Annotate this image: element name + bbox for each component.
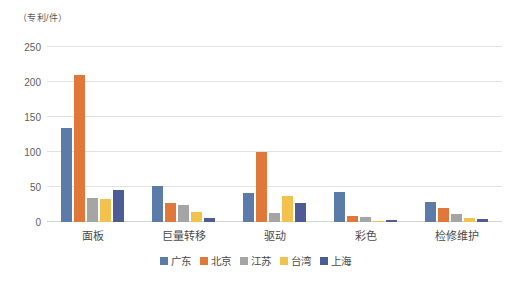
grouped-bar-chart: （专利/件） 050100150200250 面板巨量转移驱动彩色检修维护 广东…: [0, 0, 510, 285]
legend-label: 北京: [211, 253, 231, 268]
bar: [113, 190, 124, 222]
bar-group: [47, 47, 138, 222]
legend-item-广东[interactable]: 广东: [160, 253, 191, 268]
legend-swatch-icon: [240, 257, 248, 265]
bar: [425, 202, 436, 222]
bar: [74, 75, 85, 222]
legend-label: 江苏: [251, 253, 271, 268]
bar: [152, 186, 163, 222]
bar: [477, 219, 488, 223]
bar: [451, 214, 462, 222]
x-axis-category-label-0: 面板: [47, 227, 138, 243]
bar-group: [411, 47, 502, 222]
bar: [204, 218, 215, 222]
bar: [386, 220, 397, 222]
x-axis-category-label-2: 驱动: [229, 227, 320, 243]
legend-label: 上海: [331, 253, 351, 268]
legend-item-江苏[interactable]: 江苏: [240, 253, 271, 268]
bar-group: [229, 47, 320, 222]
legend-label: 台湾: [291, 253, 311, 268]
y-axis-tick-label: 150: [1, 112, 41, 123]
y-axis-tick-label: 200: [1, 77, 41, 88]
legend-label: 广东: [171, 253, 191, 268]
y-axis-tick-label: 0: [1, 217, 41, 228]
bar: [100, 199, 111, 222]
legend-swatch-icon: [320, 257, 328, 265]
x-axis-category-label-1: 巨量转移: [138, 227, 229, 243]
bar: [178, 205, 189, 223]
y-axis-unit-label: （专利/件）: [18, 11, 67, 24]
bar: [243, 193, 254, 222]
bar: [438, 208, 449, 222]
bar: [334, 192, 345, 222]
bar-groups: [47, 47, 502, 222]
y-axis-tick-label: 100: [1, 147, 41, 158]
bar: [165, 203, 176, 222]
legend-swatch-icon: [160, 257, 168, 265]
plot-area: [47, 47, 502, 222]
bar: [347, 216, 358, 222]
bar: [87, 198, 98, 222]
bar: [269, 213, 280, 222]
y-axis-tick-label: 250: [1, 42, 41, 53]
bar: [360, 217, 371, 222]
x-axis-category-labels: 面板巨量转移驱动彩色检修维护: [47, 227, 502, 243]
bar: [256, 152, 267, 222]
chart-legend: 广东北京江苏台湾上海: [0, 253, 510, 268]
bar: [61, 128, 72, 223]
bar: [282, 196, 293, 222]
legend-item-上海[interactable]: 上海: [320, 253, 351, 268]
x-axis-category-label-3: 彩色: [320, 227, 411, 243]
bar: [191, 212, 202, 222]
legend-item-台湾[interactable]: 台湾: [280, 253, 311, 268]
bar-group: [138, 47, 229, 222]
y-axis-tick-labels: 050100150200250: [0, 47, 41, 222]
x-axis-category-label-4: 检修维护: [411, 227, 502, 243]
bar: [464, 218, 475, 222]
legend-swatch-icon: [200, 257, 208, 265]
bar: [373, 221, 384, 222]
y-axis-tick-label: 50: [1, 182, 41, 193]
bar-group: [320, 47, 411, 222]
legend-swatch-icon: [280, 257, 288, 265]
legend-item-北京[interactable]: 北京: [200, 253, 231, 268]
bar: [295, 203, 306, 222]
